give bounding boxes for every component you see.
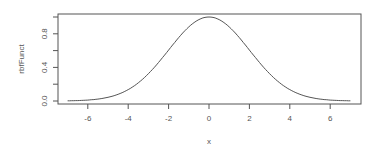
plot-frame — [58, 14, 361, 104]
x-tick-label: -4 — [125, 114, 133, 123]
x-axis-title: x — [207, 137, 211, 146]
x-tick-label: -6 — [84, 114, 92, 123]
x-tick-label: 6 — [328, 114, 333, 123]
y-tick-label: 0.4 — [40, 61, 49, 73]
y-tick-label: 0.0 — [40, 95, 49, 107]
y-axis: 0.00.40.8 — [40, 17, 58, 107]
x-axis: -6-4-20246 — [84, 104, 333, 123]
x-tick-label: 2 — [247, 114, 252, 123]
chart: -6-4-20246 0.00.40.8 x rbfFunct — [0, 0, 379, 150]
x-tick-label: -2 — [165, 114, 173, 123]
x-tick-label: 4 — [288, 114, 293, 123]
y-axis-title: rbfFunct — [17, 44, 26, 74]
x-tick-label: 0 — [207, 114, 212, 123]
rbf-curve — [68, 17, 351, 101]
y-tick-label: 0.8 — [40, 28, 49, 40]
